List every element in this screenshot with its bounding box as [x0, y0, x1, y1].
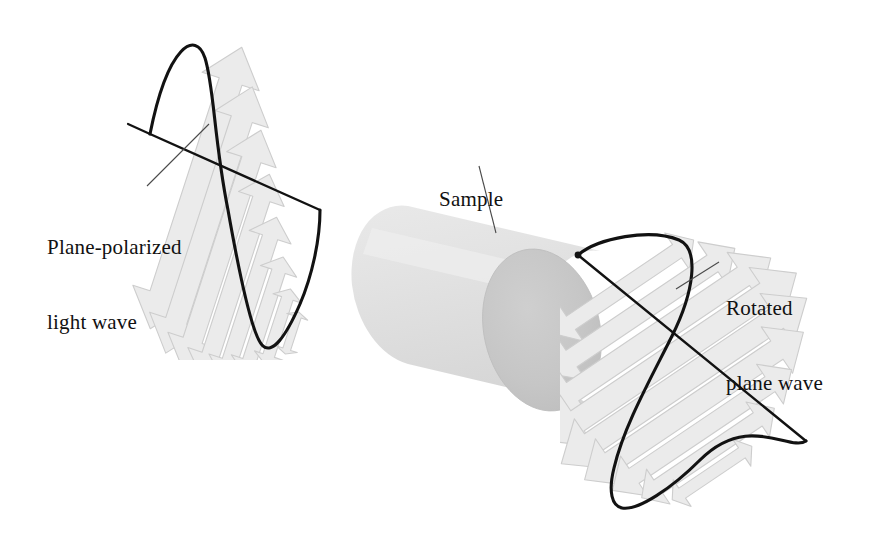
label-sample: Sample	[439, 137, 503, 262]
label-rotated-line2: plane wave	[726, 371, 823, 396]
incoming-ray-stub	[128, 124, 150, 134]
label-plane-polarized-line1: Plane-polarized	[47, 235, 182, 260]
exit-point-dot	[575, 252, 582, 259]
label-sample-text: Sample	[439, 187, 503, 212]
label-rotated-line1: Rotated	[726, 296, 823, 321]
figure-canvas: Plane-polarized light wave Sample Rotate…	[0, 0, 878, 543]
label-rotated-plane-wave: Rotated plane wave	[726, 246, 823, 446]
label-plane-polarized-line2: light wave	[47, 310, 182, 335]
label-plane-polarized-light-wave: Plane-polarized light wave	[47, 185, 182, 385]
